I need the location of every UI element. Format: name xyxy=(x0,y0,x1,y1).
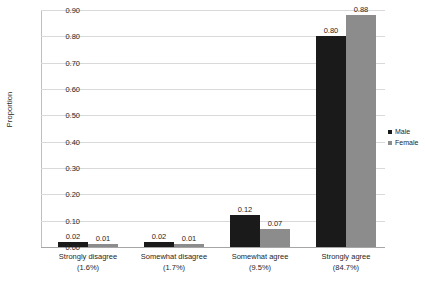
legend-swatch-icon xyxy=(388,141,392,145)
legend-item[interactable]: Male xyxy=(388,127,418,136)
y-axis-tick-label: 0.30 xyxy=(46,164,80,173)
bar-male xyxy=(316,36,346,247)
y-axis-tick-label: 0.10 xyxy=(46,216,80,225)
x-axis-category-percent: (84.7%) xyxy=(286,262,406,273)
bar-value-label: 0.01 xyxy=(83,234,123,243)
y-axis-tick-label: 0.60 xyxy=(46,85,80,94)
bar-value-label: 0.12 xyxy=(225,205,265,214)
x-axis-category-name: Strongly agree xyxy=(286,251,406,262)
y-axis-tick-label: 0.20 xyxy=(46,190,80,199)
y-axis-tick-label: 0.90 xyxy=(46,6,80,15)
bar-chart: Proportion 0.020.010.020.010.120.070.800… xyxy=(0,0,425,282)
legend-item[interactable]: Female xyxy=(388,138,418,147)
bar-female xyxy=(346,15,376,247)
bar-value-label: 0.80 xyxy=(311,26,351,35)
bar-group: 0.020.01 xyxy=(144,10,204,247)
plot-area: 0.020.010.020.010.120.070.800.88 xyxy=(41,10,385,248)
bar-female xyxy=(174,244,204,247)
bar-group: 0.800.88 xyxy=(316,10,376,247)
bar-group: 0.120.07 xyxy=(230,10,290,247)
y-axis-tick-label: 0.50 xyxy=(46,111,80,120)
y-axis-title: Proportion xyxy=(5,70,14,150)
y-axis-tick-label: 0.40 xyxy=(46,137,80,146)
legend-label: Male xyxy=(395,128,410,135)
legend-swatch-icon xyxy=(388,130,392,134)
x-axis-line xyxy=(41,247,385,248)
bar-female xyxy=(260,229,290,247)
y-axis-tick-label: 0.80 xyxy=(46,32,80,41)
x-axis-category-label: Strongly agree(84.7%) xyxy=(286,251,406,273)
chart-legend: MaleFemale xyxy=(388,127,418,149)
y-axis-line xyxy=(41,10,42,248)
legend-label: Female xyxy=(395,139,418,146)
bar-female xyxy=(88,244,118,247)
y-axis-tick-label: 0.70 xyxy=(46,58,80,67)
bar-value-label: 0.07 xyxy=(255,219,295,228)
bar-value-label: 0.01 xyxy=(169,234,209,243)
bar-value-label: 0.88 xyxy=(341,5,381,14)
bar-group: 0.020.01 xyxy=(58,10,118,247)
